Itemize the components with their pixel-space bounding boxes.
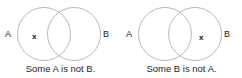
x-mark-a-only: x xyxy=(32,33,36,41)
caption-some-b-is-not-a: Some B is not A. xyxy=(121,63,242,74)
set-label-a: A xyxy=(5,30,11,39)
diagram-some-a-is-not-b: A B x Some A is not B. xyxy=(0,0,121,78)
set-label-b: B xyxy=(103,30,109,39)
venn-area-right: A B x xyxy=(121,0,242,62)
x-mark-b-only: x xyxy=(199,34,203,42)
circle-b xyxy=(48,8,101,61)
caption-some-a-is-not-b: Some A is not B. xyxy=(0,63,121,74)
circle-a xyxy=(139,8,192,61)
diagram-some-b-is-not-a: A B x Some B is not A. xyxy=(121,0,242,78)
circle-a xyxy=(18,8,71,61)
venn-area-left: A B x xyxy=(0,0,121,62)
set-label-a: A xyxy=(126,30,132,39)
circle-b xyxy=(169,8,222,61)
venn-diagram-figure: A B x Some A is not B. A B x Some B is n… xyxy=(0,0,242,78)
set-label-b: B xyxy=(224,30,230,39)
